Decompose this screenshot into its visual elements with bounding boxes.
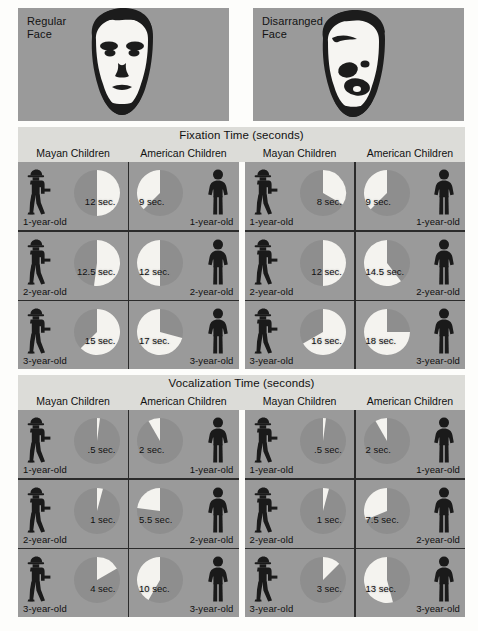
colhead-vocalization-1: American Children — [128, 391, 238, 410]
cell-fixation-regular-american-2[interactable]: 12 sec.2-year-old — [129, 232, 239, 300]
mayan-child-figure-icon — [26, 239, 52, 289]
pie-chart — [135, 238, 185, 292]
age-label: 1-year-old — [190, 464, 234, 475]
age-label: 2-year-old — [250, 286, 294, 297]
pie-value-label: 1 sec. — [317, 514, 342, 525]
cell-vocalization-regular-mayan-1[interactable]: .5 sec.1-year-old — [18, 410, 128, 478]
cell-vocalization-regular-american-1[interactable]: 2 sec.1-year-old — [129, 410, 239, 478]
age-label: 2-year-old — [250, 534, 294, 545]
cell-fixation-disarranged-american-1[interactable]: 9 sec.1-year-old — [356, 162, 466, 230]
mayan-child-figure-icon — [253, 487, 279, 537]
mayan-child-figure-icon — [253, 417, 279, 467]
pie-value-label: 18 sec. — [366, 335, 397, 346]
age-label: 2-year-old — [416, 286, 460, 297]
mayan-child-figure-icon — [26, 169, 52, 219]
cell-fixation-regular-mayan-2[interactable]: 12.5 sec.2-year-old — [18, 232, 128, 300]
cell-vocalization-regular-mayan-2[interactable]: 1 sec.2-year-old — [18, 480, 128, 548]
cell-vocalization-regular-american-2[interactable]: 5.5 sec.2-year-old — [129, 480, 239, 548]
age-label: 1-year-old — [250, 216, 294, 227]
table-row: 4 sec.3-year-old 10 sec.3-year-old — [18, 549, 239, 617]
table-row: .5 sec.1-year-old 2 sec.1-year-old — [245, 410, 466, 478]
pie-chart — [362, 486, 412, 540]
cell-fixation-regular-mayan-1[interactable]: 12 sec.1-year-old — [18, 162, 128, 230]
grid-fixation-regular: 12 sec.1-year-old 9 sec.1-year-old 12.5 … — [18, 162, 239, 369]
pie-chart — [298, 416, 348, 470]
table-row: 1 sec.2-year-old 5.5 sec.2-year-old — [18, 480, 239, 548]
pie-value-label: 5.5 sec. — [139, 514, 172, 525]
age-label: 2-year-old — [190, 286, 234, 297]
cell-vocalization-disarranged-american-1[interactable]: 2 sec.1-year-old — [356, 410, 466, 478]
pie-chart — [135, 555, 185, 609]
pie-chart — [298, 486, 348, 540]
mayan-child-figure-icon — [26, 308, 52, 358]
table-row: .5 sec.1-year-old 2 sec.1-year-old — [18, 410, 239, 478]
mayan-child-figure-icon — [253, 169, 279, 219]
cell-vocalization-disarranged-american-2[interactable]: 7.5 sec.2-year-old — [356, 480, 466, 548]
cell-fixation-regular-american-1[interactable]: 9 sec.1-year-old — [129, 162, 239, 230]
cell-fixation-disarranged-mayan-2[interactable]: 12 sec.2-year-old — [245, 232, 355, 300]
stimulus-disarranged-face: Disarranged Face — [253, 8, 464, 121]
american-child-figure-icon — [431, 487, 457, 537]
pie-value-label: 2 sec. — [366, 444, 391, 455]
disarranged-face-image — [253, 8, 464, 121]
table-row: 12 sec.2-year-old 14.5 sec.2-year-old — [245, 232, 466, 300]
cell-vocalization-regular-mayan-3[interactable]: 4 sec.3-year-old — [18, 549, 128, 617]
cell-vocalization-disarranged-mayan-1[interactable]: .5 sec.1-year-old — [245, 410, 355, 478]
pie-chart — [298, 168, 348, 222]
pie-value-label: 12 sec. — [311, 266, 342, 277]
pie-value-label: .5 sec. — [88, 444, 116, 455]
pie-chart — [72, 307, 122, 361]
age-label: 1-year-old — [416, 216, 460, 227]
mayan-child-figure-icon — [26, 417, 52, 467]
colhead-fixation-0: Mayan Children — [18, 143, 128, 162]
cell-vocalization-regular-american-3[interactable]: 10 sec.3-year-old — [129, 549, 239, 617]
mayan-child-figure-icon — [26, 556, 52, 606]
pie-chart — [135, 416, 185, 470]
cell-fixation-disarranged-mayan-3[interactable]: 16 sec.3-year-old — [245, 301, 355, 369]
cell-fixation-disarranged-american-3[interactable]: 18 sec.3-year-old — [356, 301, 466, 369]
grid-fixation-disarranged: 8 sec.1-year-old 9 sec.1-year-old 12 sec… — [245, 162, 466, 369]
pie-chart — [362, 416, 412, 470]
cell-vocalization-disarranged-american-3[interactable]: 13 sec.3-year-old — [356, 549, 466, 617]
regular-face-image — [18, 8, 229, 121]
american-child-figure-icon — [205, 169, 231, 219]
cell-fixation-disarranged-american-2[interactable]: 14.5 sec.2-year-old — [356, 232, 466, 300]
american-child-figure-icon — [431, 239, 457, 289]
section-title-vocalization: Vocalization Time (seconds) — [18, 375, 465, 391]
table-row: 12.5 sec.2-year-old 12 sec.2-year-old — [18, 232, 239, 300]
pie-value-label: 12.5 sec. — [77, 266, 116, 277]
cell-fixation-disarranged-mayan-1[interactable]: 8 sec.1-year-old — [245, 162, 355, 230]
colhead-fixation-2: Mayan Children — [245, 143, 355, 162]
colhead-vocalization-2: Mayan Children — [245, 391, 355, 410]
american-child-figure-icon — [431, 417, 457, 467]
colhead-vocalization-0: Mayan Children — [18, 391, 128, 410]
stimulus-row: Regular Face — [18, 8, 465, 121]
cell-vocalization-disarranged-mayan-2[interactable]: 1 sec.2-year-old — [245, 480, 355, 548]
age-label: 3-year-old — [190, 603, 234, 614]
pie-value-label: .5 sec. — [314, 444, 342, 455]
age-label: 1-year-old — [23, 216, 67, 227]
pie-value-label: 15 sec. — [85, 335, 116, 346]
cell-fixation-regular-mayan-3[interactable]: 15 sec.3-year-old — [18, 301, 128, 369]
pie-chart — [72, 168, 122, 222]
section-title-fixation: Fixation Time (seconds) — [18, 127, 465, 143]
cell-vocalization-disarranged-mayan-3[interactable]: 3 sec.3-year-old — [245, 549, 355, 617]
pie-value-label: 4 sec. — [90, 583, 115, 594]
age-label: 2-year-old — [190, 534, 234, 545]
mayan-child-figure-icon — [253, 556, 279, 606]
mayan-child-figure-icon — [253, 239, 279, 289]
american-child-figure-icon — [205, 556, 231, 606]
cell-fixation-regular-american-3[interactable]: 17 sec.3-year-old — [129, 301, 239, 369]
table-row: 8 sec.1-year-old 9 sec.1-year-old — [245, 162, 466, 230]
pie-chart — [135, 307, 185, 361]
american-child-figure-icon — [205, 417, 231, 467]
pie-value-label: 10 sec. — [139, 583, 170, 594]
pie-value-label: 1 sec. — [90, 514, 115, 525]
pie-value-label: 12 sec. — [139, 266, 170, 277]
grid-vocalization-disarranged: .5 sec.1-year-old 2 sec.1-year-old 1 sec… — [245, 410, 466, 617]
age-label: 1-year-old — [23, 464, 67, 475]
infographic-sheet: Regular Face — [18, 8, 465, 624]
pie-chart — [362, 307, 412, 361]
pie-value-label: 13 sec. — [366, 583, 397, 594]
pie-value-label: 9 sec. — [366, 196, 391, 207]
